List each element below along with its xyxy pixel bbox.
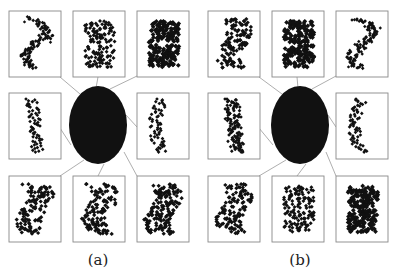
leader-line [312, 76, 336, 89]
leader-line [110, 76, 137, 89]
fractal-thumbnail-bottom-left [9, 176, 61, 242]
fractal-thumbnail-middle-left [9, 93, 61, 159]
parameter-region-blob [271, 86, 329, 164]
fractal-thumbnail-middle-left [208, 93, 260, 159]
fractal-thumbnail-middle-right [137, 93, 189, 159]
fractal-thumbnail-bottom-right [336, 176, 388, 242]
thumbnail-frame [208, 176, 260, 242]
fractal-thumbnail-bottom-center [272, 176, 324, 242]
fractal-thumbnail-bottom-center [73, 176, 125, 242]
fractal-thumbnail-middle-right [336, 93, 388, 159]
fractal-thumbnail-bottom-right [137, 176, 189, 242]
panel-b: (b) [199, 0, 398, 275]
leader-line [124, 152, 137, 176]
leader-line [126, 115, 137, 127]
caption-a: (a) [78, 251, 118, 269]
leader-line [60, 160, 84, 176]
leader-line [98, 164, 104, 176]
leader-line [328, 115, 336, 127]
leader-line [326, 152, 336, 176]
fractal-thumbnail-top-center [73, 11, 125, 77]
caption-b: (b) [280, 251, 320, 269]
parameter-region-blob [69, 86, 127, 164]
panel-a: (a) [0, 0, 199, 275]
panel-b-diagram [199, 0, 398, 275]
leader-line [259, 128, 273, 145]
panel-a-diagram [0, 0, 199, 275]
leader-line [297, 164, 306, 176]
fractal-thumbnail-top-right [336, 11, 388, 77]
leader-line [60, 77, 80, 94]
fractal-thumbnail-bottom-left [208, 176, 260, 242]
fractal-thumbnail-top-left [208, 11, 260, 77]
leader-line [259, 77, 282, 94]
fractal-thumbnail-top-left [9, 11, 61, 77]
fractal-thumbnail-top-center [272, 11, 324, 77]
leader-line [259, 160, 286, 176]
fractal-thumbnail-top-right [137, 11, 189, 77]
